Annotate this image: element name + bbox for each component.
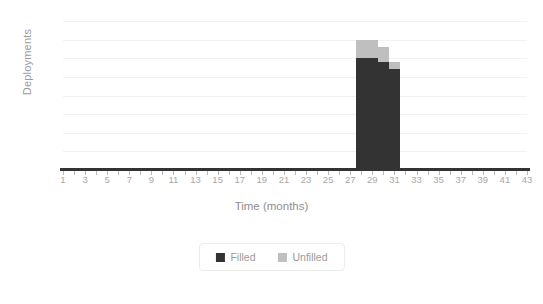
bar-series-group xyxy=(63,21,527,170)
bar xyxy=(389,62,400,170)
x-axis-tick-labels: 135791113151719212325272931333537394143 xyxy=(63,174,527,188)
x-axis-tick-label: 37 xyxy=(455,174,466,185)
x-axis-tick-label: 33 xyxy=(411,174,422,185)
x-axis-tick-label: 35 xyxy=(433,174,444,185)
x-axis-title: Time (months) xyxy=(0,200,543,212)
x-axis-tick-label: 27 xyxy=(345,174,356,185)
x-axis-tick-label: 19 xyxy=(257,174,268,185)
x-axis-tick-label: 9 xyxy=(149,174,154,185)
bar-segment-filled xyxy=(367,58,378,170)
bar-segment-unfilled xyxy=(389,62,400,69)
bar-segment-unfilled xyxy=(378,47,389,62)
x-axis-tick-label: 3 xyxy=(82,174,87,185)
chart-legend: FilledUnfilled xyxy=(198,243,344,271)
bar-segment-unfilled xyxy=(356,40,367,59)
bar xyxy=(378,47,389,170)
x-axis-tick-label: 17 xyxy=(234,174,245,185)
x-axis-tick-label: 39 xyxy=(478,174,489,185)
x-axis-tick-label: 21 xyxy=(279,174,290,185)
x-axis-tick-label: 15 xyxy=(212,174,223,185)
x-axis-tick-label: 1 xyxy=(60,174,65,185)
legend-label: Filled xyxy=(230,251,255,263)
x-axis-tick-label: 41 xyxy=(500,174,511,185)
bar-segment-filled xyxy=(389,69,400,170)
legend-swatch-icon xyxy=(215,253,224,262)
x-axis-tick-label: 31 xyxy=(389,174,400,185)
x-axis-tick-label: 13 xyxy=(190,174,201,185)
bar-segment-unfilled xyxy=(367,40,378,59)
deployments-bar-chart: Deployments 0510152025303540 13579111315… xyxy=(0,0,543,304)
x-axis-tick-label: 7 xyxy=(127,174,132,185)
legend-item[interactable]: Filled xyxy=(215,251,255,263)
bar xyxy=(356,40,367,170)
legend-swatch-icon xyxy=(278,253,287,262)
bar-segment-filled xyxy=(356,58,367,170)
x-axis-tick-label: 43 xyxy=(522,174,533,185)
bar xyxy=(367,40,378,170)
x-axis-tick-label: 23 xyxy=(301,174,312,185)
legend-item[interactable]: Unfilled xyxy=(278,251,328,263)
bar-segment-filled xyxy=(378,62,389,170)
x-axis-tick-label: 25 xyxy=(323,174,334,185)
plot-area xyxy=(63,21,527,170)
x-axis-tick-label: 5 xyxy=(105,174,110,185)
x-axis-tick-label: 29 xyxy=(367,174,378,185)
legend-label: Unfilled xyxy=(293,251,328,263)
x-axis-tick-label: 11 xyxy=(169,174,179,185)
